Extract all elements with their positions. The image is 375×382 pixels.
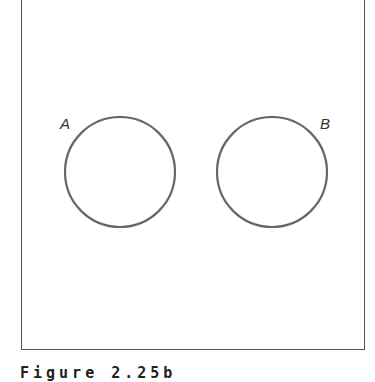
set-b-label: B xyxy=(320,115,330,132)
set-a-label: A xyxy=(60,115,70,132)
figure-caption: Figure 2.25b xyxy=(20,364,176,382)
set-b-circle xyxy=(217,117,327,227)
set-a-circle xyxy=(65,117,175,227)
